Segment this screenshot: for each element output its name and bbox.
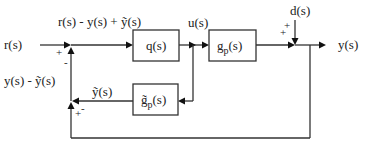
input-label: r(s) xyxy=(4,37,22,52)
output-label: y(s) xyxy=(338,37,358,52)
arrowhead-output xyxy=(319,42,326,49)
arrowhead-plant-input xyxy=(202,42,209,49)
control-label: u(s) xyxy=(188,15,208,30)
model-output-label: ỹ(s) xyxy=(92,84,112,99)
arrowhead-sum3-bottom xyxy=(68,102,75,109)
sum3-minus-sign: - xyxy=(81,102,85,114)
sum2-plus-sign-top: + xyxy=(284,19,290,31)
arrowhead-model-input xyxy=(178,98,185,105)
arrowhead-sum1-input xyxy=(64,42,71,49)
block-diagram: r(s) r(s) - y(s) + ỹ(s) + - y(s) - ỹ(s) … xyxy=(0,0,374,149)
sum1-plus-sign: + xyxy=(56,46,62,58)
feedback-label: y(s) - ỹ(s) xyxy=(4,73,55,88)
arrowhead-controller-input xyxy=(126,42,133,49)
sum1-minus-sign: - xyxy=(64,56,68,68)
error-label: r(s) - y(s) + ỹ(s) xyxy=(58,14,141,29)
arrowhead-sum3-model xyxy=(72,98,79,105)
disturbance-label: d(s) xyxy=(290,3,310,18)
controller-label: q(s) xyxy=(146,38,166,53)
arrowhead-sum1-feedback xyxy=(68,47,75,54)
